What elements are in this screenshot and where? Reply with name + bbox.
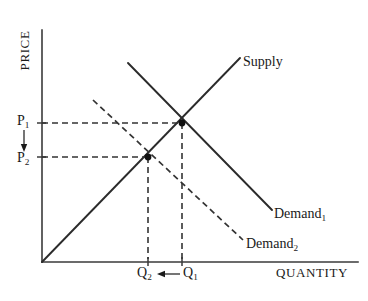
p2-label-base: P: [17, 150, 25, 165]
chart-canvas: [0, 0, 368, 301]
demand1-curve-label: Demand1: [274, 207, 326, 221]
equilibrium-point-2: [145, 154, 152, 161]
demand1-label-base: Demand: [274, 206, 321, 221]
q1-label-base: Q: [183, 265, 193, 280]
x-axis-title: QUANTITY: [276, 266, 348, 279]
y-axis-title: PRICE: [18, 18, 31, 84]
price-tick-label-p1: P1: [17, 114, 29, 128]
demand2-curve-label: Demand2: [246, 237, 298, 251]
quantity-shift-arrow: [157, 271, 180, 277]
demand1-label-sub: 1: [321, 213, 326, 223]
price-shift-arrow: [21, 130, 27, 152]
demand2-label-base: Demand: [246, 236, 293, 251]
quantity-arrow-head: [157, 271, 165, 277]
equilibrium-markers-group: [145, 120, 186, 161]
demand2-label-sub: 2: [293, 243, 298, 253]
quantity-tick-label-q1: Q1: [183, 266, 198, 280]
q2-label-sub: 2: [147, 272, 152, 282]
demand1-curve: [128, 63, 272, 210]
p1-label-base: P: [17, 113, 25, 128]
q2-label-base: Q: [137, 265, 147, 280]
quantity-tick-label-q2: Q2: [137, 266, 152, 280]
demand2-curve: [93, 100, 243, 240]
supply-curve-label: Supply: [243, 55, 283, 69]
p2-label-sub: 2: [25, 157, 30, 167]
axes-group: [42, 30, 358, 262]
q1-label-sub: 1: [193, 272, 198, 282]
supply-curve: [42, 58, 240, 262]
equilibrium-point-1: [179, 120, 186, 127]
p1-label-sub: 1: [25, 120, 30, 130]
supply-demand-chart: PRICE QUANTITY Supply Demand1 Demand2 P1…: [0, 0, 368, 301]
price-tick-label-p2: P2: [17, 151, 29, 165]
